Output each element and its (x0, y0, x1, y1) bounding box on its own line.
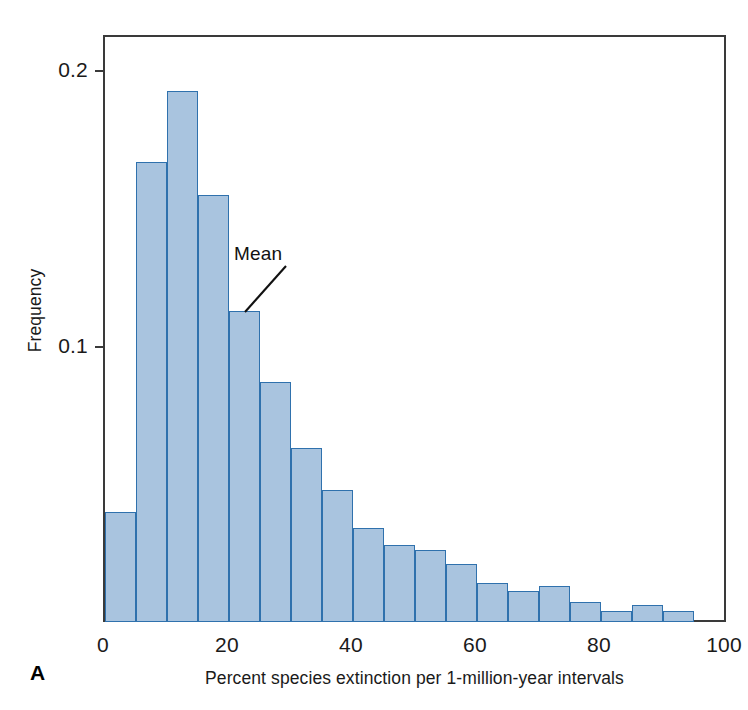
plot-frame (103, 35, 726, 622)
ytick-mark-0.2 (95, 70, 104, 72)
figure-panel-a: Mean 0.2 0.1 0 20 40 60 80 100 Percent s… (0, 0, 748, 710)
xtick-label-80: 80 (569, 633, 629, 657)
x-axis-title: Percent species extinction per 1-million… (103, 668, 726, 689)
panel-label-a: A (30, 661, 45, 685)
xtick-label-0: 0 (73, 633, 133, 657)
xtick-label-40: 40 (321, 633, 381, 657)
ytick-label-0.2: 0.2 (36, 58, 88, 82)
mean-annotation-label: Mean (234, 243, 282, 265)
xtick-label-100: 100 (694, 633, 748, 657)
xtick-label-60: 60 (445, 633, 505, 657)
xtick-label-20: 20 (197, 633, 257, 657)
ytick-mark-0.1 (95, 346, 104, 348)
y-axis-title: Frequency (25, 231, 46, 391)
